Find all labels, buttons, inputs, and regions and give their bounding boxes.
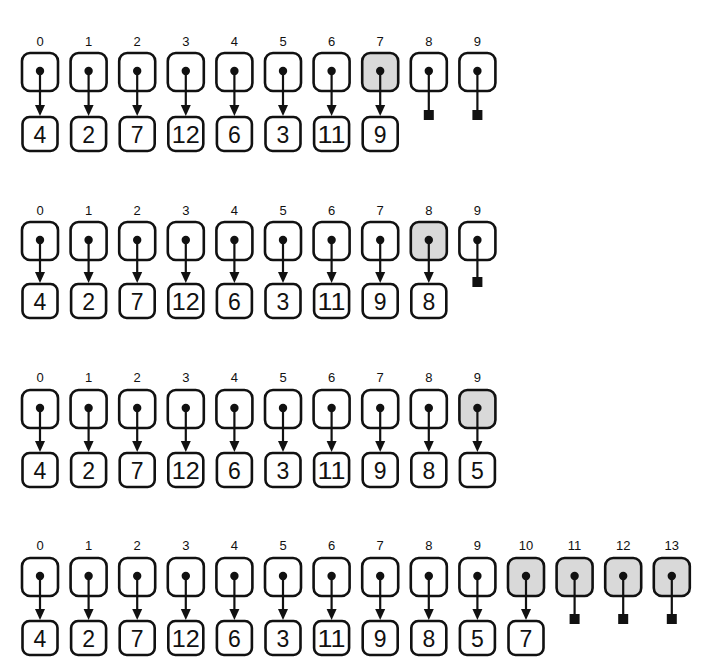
slot-index-label: 3 [182, 370, 189, 385]
array-slot: 9 [459, 34, 495, 120]
slot-index-label: 3 [182, 34, 189, 49]
slot-index-label: 1 [85, 370, 92, 385]
array-slot: 04 [22, 370, 58, 487]
arrow-head-icon [84, 105, 94, 116]
slot-index-label: 8 [425, 538, 432, 553]
slot-index-label: 0 [36, 203, 43, 218]
slot-index-label: 0 [36, 370, 43, 385]
value-label: 6 [228, 458, 241, 484]
null-terminator-icon [472, 110, 482, 120]
slot-index-label: 1 [85, 538, 92, 553]
arrow-head-icon [327, 272, 337, 283]
array-slot: 53 [265, 34, 301, 151]
arrow-head-icon [327, 609, 337, 620]
slot-index-label: 4 [231, 370, 238, 385]
arrow-head-icon [229, 272, 239, 283]
slot-index-label: 12 [616, 538, 630, 553]
slot-index-label: 11 [568, 538, 582, 553]
value-label: 3 [277, 289, 290, 315]
array-slot: 611 [314, 34, 350, 151]
arrow-head-icon [424, 441, 434, 452]
slot-index-label: 8 [425, 203, 432, 218]
array-slot: 312 [168, 203, 204, 318]
value-label: 12 [172, 289, 200, 315]
null-terminator-icon [472, 277, 482, 287]
value-label: 3 [277, 122, 290, 148]
value-label: 6 [228, 289, 241, 315]
arrow-head-icon [424, 609, 434, 620]
array-slot: 79 [362, 203, 398, 318]
value-label: 2 [82, 122, 95, 148]
value-label: 7 [131, 289, 144, 315]
array-slot: 46 [216, 34, 252, 151]
null-terminator-icon [618, 614, 628, 624]
null-terminator-icon [570, 614, 580, 624]
value-label: 11 [318, 122, 346, 148]
value-label: 7 [131, 458, 144, 484]
slot-index-label: 5 [279, 203, 286, 218]
arrow-head-icon [229, 609, 239, 620]
value-label: 9 [374, 122, 387, 148]
array-slot: 95 [459, 538, 495, 655]
value-label: 5 [471, 626, 484, 652]
array-slot: 611 [314, 370, 350, 487]
pointer-array-diagram: 0412273124653611798904122731246536117988… [0, 0, 713, 668]
arrow-head-icon [181, 105, 191, 116]
array-slot: 611 [314, 538, 350, 655]
value-label: 12 [172, 626, 200, 652]
arrow-head-icon [424, 272, 434, 283]
array-slot: 79 [362, 370, 398, 487]
arrow-head-icon [375, 441, 385, 452]
slot-index-label: 9 [474, 203, 481, 218]
slot-index-label: 5 [279, 34, 286, 49]
array-slot: 88 [411, 203, 447, 318]
slot-index-label: 8 [425, 34, 432, 49]
arrow-head-icon [472, 441, 482, 452]
arrow-head-icon [472, 609, 482, 620]
value-label: 2 [82, 458, 95, 484]
value-label: 8 [422, 626, 435, 652]
slot-index-label: 10 [519, 538, 533, 553]
value-label: 12 [172, 122, 200, 148]
slot-index-label: 9 [474, 34, 481, 49]
value-label: 8 [422, 289, 435, 315]
value-label: 7 [131, 626, 144, 652]
arrow-head-icon [229, 105, 239, 116]
arrow-head-icon [35, 609, 45, 620]
array-slot: 95 [459, 370, 495, 487]
slot-index-label: 6 [328, 538, 335, 553]
value-label: 4 [34, 458, 47, 484]
array-slot: 312 [168, 370, 204, 487]
array-slot: 13 [654, 538, 690, 624]
arrow-head-icon [278, 609, 288, 620]
arrow-head-icon [132, 441, 142, 452]
array-slot: 27 [119, 203, 155, 318]
slot-index-label: 2 [134, 538, 141, 553]
value-label: 2 [82, 289, 95, 315]
arrow-head-icon [278, 441, 288, 452]
slot-index-label: 2 [134, 203, 141, 218]
slot-index-label: 5 [279, 370, 286, 385]
arrow-head-icon [375, 272, 385, 283]
array-slot: 27 [119, 538, 155, 655]
arrow-head-icon [132, 105, 142, 116]
value-label: 11 [318, 289, 346, 315]
slot-index-label: 2 [134, 370, 141, 385]
array-slot: 79 [362, 538, 398, 655]
arrow-head-icon [327, 105, 337, 116]
slot-index-label: 1 [85, 203, 92, 218]
value-label: 6 [228, 626, 241, 652]
array-slot: 27 [119, 370, 155, 487]
array-slot: 9 [459, 203, 495, 287]
arrow-head-icon [84, 272, 94, 283]
arrow-head-icon [375, 105, 385, 116]
arrow-head-icon [181, 609, 191, 620]
value-label: 3 [277, 626, 290, 652]
array-slot: 312 [168, 34, 204, 151]
null-terminator-icon [424, 110, 434, 120]
slot-index-label: 7 [377, 34, 384, 49]
arrow-head-icon [132, 609, 142, 620]
array-slot: 88 [411, 538, 447, 655]
slot-index-label: 4 [231, 538, 238, 553]
arrow-head-icon [132, 272, 142, 283]
